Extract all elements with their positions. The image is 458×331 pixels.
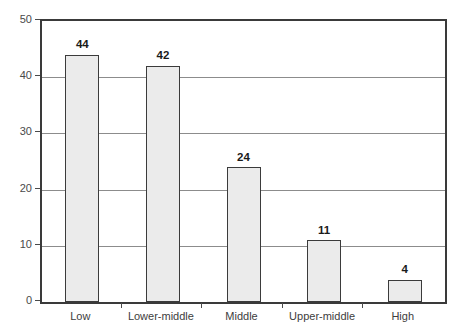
bar-group: 44 [65,21,99,302]
bar-value-label: 4 [401,264,407,276]
bar-value-label: 42 [156,50,169,62]
y-tick-label-50: 50 [0,14,32,25]
x-tick-mark [362,303,363,308]
y-tick-label-20: 20 [0,182,32,193]
y-axis: 01020304050 [0,0,40,331]
bar-group: 42 [146,21,180,302]
bar-group: 24 [227,21,261,302]
y-tick-label-40: 40 [0,70,32,81]
bar [388,280,422,302]
bar [65,55,99,302]
x-axis: LowLower-middleMiddleUpper-middleHigh [40,303,443,331]
bar-value-label: 44 [76,39,89,51]
x-category-label: Upper-middle [289,311,355,322]
bar [146,66,180,302]
bar [227,167,261,302]
y-tick-label-10: 10 [0,238,32,249]
y-tick-label-0: 0 [0,295,32,306]
x-tick-mark [282,303,283,308]
bar [307,240,341,302]
x-category-label: Middle [225,311,257,322]
bar-group: 11 [307,21,341,302]
bar-value-label: 11 [318,225,330,237]
bar-value-label: 24 [237,152,250,164]
x-tick-mark [201,303,202,308]
y-tick-label-30: 30 [0,126,32,137]
x-category-label: Low [70,311,90,322]
plot-area: 444224114 [40,19,447,304]
x-category-label: Lower-middle [128,311,194,322]
bar-group: 4 [388,21,422,302]
x-tick-mark [121,303,122,308]
x-category-label: High [391,311,414,322]
bar-chart: 01020304050 444224114 LowLower-middleMid… [0,0,458,331]
